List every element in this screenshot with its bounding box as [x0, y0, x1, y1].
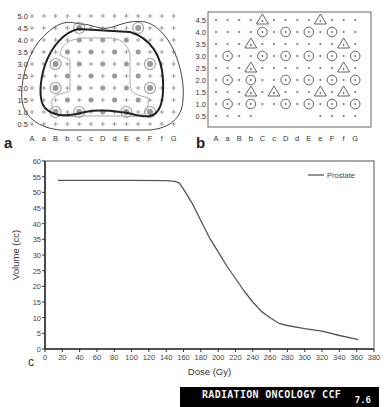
grid-dot — [331, 67, 333, 69]
seed-dot — [285, 79, 287, 81]
grid-dot — [343, 55, 345, 57]
grid-dot — [331, 43, 333, 45]
grid-dot — [215, 19, 217, 21]
series-line-prostate — [58, 180, 358, 339]
seed-dot — [343, 44, 345, 46]
grid-dot — [285, 43, 287, 45]
x-tick-label: 340 — [333, 353, 346, 362]
seed-dot — [77, 62, 82, 67]
grid-plus-marker — [160, 26, 164, 30]
grid-dot — [273, 43, 275, 45]
triangle-seed-marker — [245, 62, 257, 72]
grid-dot — [354, 19, 356, 21]
seed-dot — [250, 68, 252, 70]
y-tick-label: 15 — [33, 298, 41, 307]
x-tick-label: e — [318, 134, 322, 143]
seed-dot — [53, 61, 59, 67]
grid-plus-marker — [65, 110, 69, 114]
seed-dot — [308, 31, 310, 33]
plot-frame — [45, 161, 374, 349]
x-tick-label: B — [237, 134, 242, 143]
grid-plus-marker — [30, 110, 34, 114]
grid-plus-marker — [160, 38, 164, 42]
radiation-oncology-banner: RADIATION ONCOLOGY CCF 7.6 — [180, 387, 379, 407]
panel-a-dose-grid: 5.04.54.03.53.02.52.01.51.00.5AaBbCcDdEe… — [0, 0, 195, 150]
y-tick-label: 30 — [33, 251, 41, 260]
x-tick-label: A — [29, 134, 34, 143]
grid-dot — [354, 91, 356, 93]
x-tick-label: 320 — [316, 353, 329, 362]
grid-plus-marker — [160, 122, 164, 126]
grid-plus-marker — [77, 74, 81, 78]
seed-dot — [124, 86, 129, 91]
x-tick-label: f — [343, 134, 346, 143]
grid-dot — [285, 91, 287, 93]
seed-dot — [262, 55, 264, 57]
x-tick-label: d — [295, 134, 299, 143]
seed-dot — [308, 55, 310, 57]
grid-dot — [227, 91, 229, 93]
grid-plus-marker — [148, 26, 152, 30]
grid-plus-marker — [171, 74, 175, 78]
x-tick-label: c — [272, 134, 276, 143]
triangle-seed-marker — [268, 86, 280, 96]
x-tick-label: C — [260, 134, 266, 143]
grid-dot — [250, 55, 252, 57]
grid-dot — [238, 115, 240, 117]
y-tick-label: 2.5 — [196, 64, 206, 73]
x-tick-label: 160 — [177, 353, 190, 362]
grid-dot — [215, 67, 217, 69]
grid-plus-marker — [112, 62, 116, 66]
seed-dot — [285, 31, 287, 33]
grid-dot — [308, 43, 310, 45]
seed-dot — [273, 92, 275, 94]
seed-dot — [53, 85, 59, 91]
seed-dot — [285, 103, 287, 105]
grid-dot — [296, 103, 298, 105]
x-tick-label: D — [283, 134, 289, 143]
grid-dot — [285, 19, 287, 21]
seed-dot — [331, 31, 333, 33]
grid-plus-marker — [65, 122, 69, 126]
panel-c-dvh-chart: 0510152025303540455055600204060801001201… — [0, 150, 385, 385]
grid-plus-marker — [148, 14, 152, 18]
grid-dot — [308, 19, 310, 21]
x-tick-label: C — [76, 134, 82, 143]
seed-dot — [89, 98, 94, 103]
grid-plus-marker — [89, 62, 93, 66]
grid-dot — [238, 31, 240, 33]
grid-dot — [319, 31, 321, 33]
grid-dot — [250, 115, 252, 117]
grid-dot — [238, 103, 240, 105]
grid-dot — [308, 67, 310, 69]
y-tick-label: 1.0 — [196, 100, 206, 109]
x-tick-label: 260 — [264, 353, 277, 362]
y-tick-label: 0.5 — [196, 112, 206, 121]
y-tick-label: 4.0 — [196, 28, 206, 37]
legend-label: Prostate — [327, 171, 355, 180]
grid-dot — [261, 43, 263, 45]
y-tick-label: 4.0 — [18, 36, 28, 45]
grid-plus-marker — [136, 38, 140, 42]
grid-plus-marker — [53, 98, 57, 102]
grid-dot — [343, 31, 345, 33]
grid-plus-marker — [53, 50, 57, 54]
grid-dot — [238, 79, 240, 81]
grid-dot — [261, 103, 263, 105]
grid-plus-marker — [171, 86, 175, 90]
grid-dot — [296, 31, 298, 33]
x-tick-label: c — [89, 134, 93, 143]
x-tick-label: 380 — [368, 353, 381, 362]
grid-plus-marker — [77, 98, 81, 102]
grid-plus-marker — [30, 26, 34, 30]
grid-plus-marker — [171, 110, 175, 114]
y-tick-label: 40 — [33, 220, 41, 229]
grid-plus-marker — [136, 110, 140, 114]
grid-dot — [273, 103, 275, 105]
grid-dot — [296, 19, 298, 21]
banner-title: RADIATION ONCOLOGY CCF — [202, 389, 341, 400]
grid-dot — [343, 79, 345, 81]
grid-plus-marker — [42, 14, 46, 18]
grid-dot — [319, 115, 321, 117]
grid-dot — [215, 103, 217, 105]
